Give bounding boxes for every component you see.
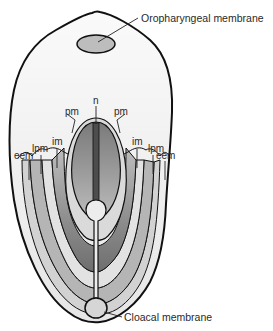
lateral-plate-mesoderm-label-left: lpm bbox=[32, 143, 48, 154]
cloacal-membrane-label: Cloacal membrane bbox=[124, 311, 212, 323]
cloacal-membrane bbox=[85, 298, 107, 318]
paraxial-mesoderm-label-left: pm bbox=[65, 106, 79, 117]
extraembryonic-mesoderm-label-right: eem bbox=[156, 150, 175, 161]
notochord-label: n bbox=[93, 95, 99, 106]
extraembryonic-mesoderm-label-left: eem bbox=[14, 150, 33, 161]
paraxial-mesoderm-label-right: pm bbox=[114, 106, 128, 117]
notochord bbox=[93, 123, 99, 201]
embryonic-disc-diagram: Oropharyngeal membrane Cloacal membrane … bbox=[0, 0, 273, 331]
oropharyngeal-membrane bbox=[77, 35, 115, 53]
oropharyngeal-membrane-label: Oropharyngeal membrane bbox=[141, 12, 264, 24]
intermediate-mesoderm-label-left: im bbox=[52, 136, 63, 147]
intermediate-mesoderm-label-right: im bbox=[132, 136, 143, 147]
